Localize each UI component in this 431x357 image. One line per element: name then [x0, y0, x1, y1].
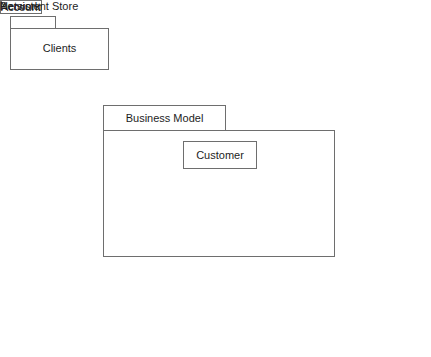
package-label-business-model: Business Model [103, 105, 226, 130]
uml-package-diagram: Clients Business Model Customer Bank Acc… [0, 0, 431, 357]
package-account[interactable]: Account [0, 0, 42, 14]
package-clients[interactable]: Clients [10, 16, 109, 70]
package-body [0, 0, 2, 2]
package-customer[interactable]: Customer [183, 141, 257, 169]
package-body [10, 28, 109, 70]
package-business-model[interactable]: Business Model [103, 105, 335, 257]
